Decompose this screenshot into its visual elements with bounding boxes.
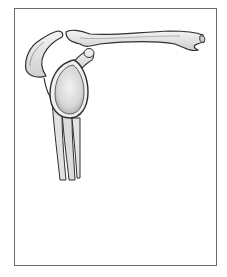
shoulder-anatomy-illustration xyxy=(0,0,227,277)
glenoid-fossa xyxy=(50,60,88,118)
clavicle xyxy=(66,30,205,50)
